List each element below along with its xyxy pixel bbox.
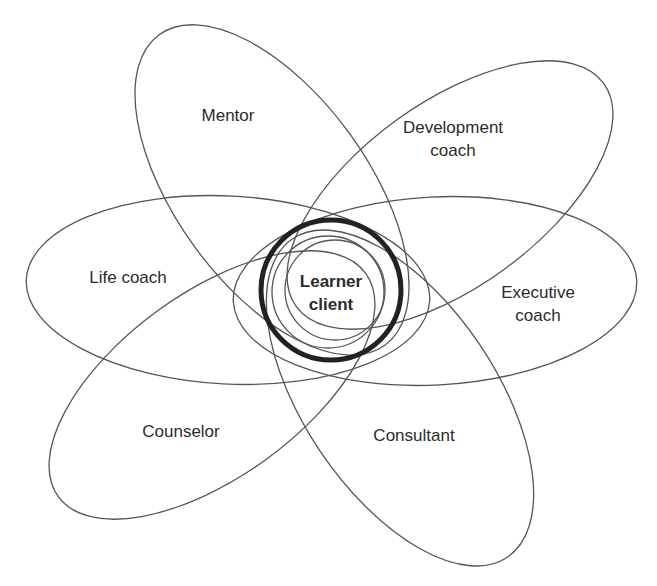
mentor-label: Mentor bbox=[202, 106, 255, 125]
development-coach-ellipse bbox=[242, 9, 657, 381]
executive-coach-label: Executive bbox=[501, 283, 575, 302]
development-coach-label-line2: coach bbox=[430, 141, 475, 160]
learner-client-label-line2: client bbox=[309, 295, 354, 314]
counselor-ellipse bbox=[4, 199, 420, 571]
consultant-label: Consultant bbox=[373, 426, 455, 445]
life-coach-ellipse bbox=[21, 186, 434, 395]
development-coach-label: Development bbox=[403, 118, 503, 137]
coaching-roles-diagram: Mentor Development coach Life coach Exec… bbox=[0, 0, 657, 586]
counselor-label: Counselor bbox=[142, 422, 220, 441]
life-coach-label: Life coach bbox=[89, 268, 167, 287]
executive-coach-label-line2: coach bbox=[515, 306, 560, 325]
learner-client-label: Learner bbox=[300, 272, 363, 291]
executive-coach-ellipse bbox=[228, 187, 641, 396]
